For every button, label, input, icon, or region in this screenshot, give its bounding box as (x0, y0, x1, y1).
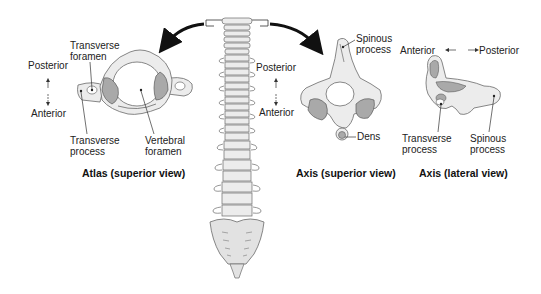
label-transverse-foramen: Transverse foramen (70, 40, 120, 62)
label-line: foramen (145, 146, 185, 157)
label-line: process (470, 144, 506, 155)
label-lateral-anterior: Anterior (400, 45, 435, 56)
vertebral-column (206, 18, 268, 278)
label-lateral-transverse-process: Transverse process (402, 133, 452, 155)
label-spinous-process: Spinous process (356, 33, 392, 55)
label-line: Spinous (356, 33, 392, 44)
label-lateral-posterior: Posterior (479, 45, 519, 56)
label-line: Transverse (70, 40, 120, 51)
title-axis-superior: Axis (superior view) (296, 167, 396, 179)
label-line: Spinous (470, 133, 506, 144)
label-axis-anterior: Anterior (259, 107, 294, 118)
label-line: Vertebral (145, 135, 185, 146)
arrow-to-atlas (166, 24, 204, 44)
label-line: Transverse (402, 133, 452, 144)
label-line: Transverse (70, 135, 120, 146)
axis-vertebra-lateral (426, 56, 500, 115)
label-line: process (402, 144, 452, 155)
label-line: process (70, 146, 120, 157)
label-atlas-anterior: Anterior (31, 108, 66, 119)
label-line: process (356, 44, 392, 55)
title-atlas-superior: Atlas (superior view) (82, 167, 185, 179)
arrow-to-axis (270, 24, 316, 46)
label-axis-posterior: Posterior (256, 62, 296, 73)
label-vertebral-foramen: Vertebral foramen (145, 135, 185, 157)
title-axis-lateral: Axis (lateral view) (419, 167, 508, 179)
label-lateral-spinous-process: Spinous process (470, 133, 506, 155)
label-atlas-posterior: Posterior (28, 60, 68, 71)
label-dens: Dens (357, 131, 380, 142)
label-transverse-process: Transverse process (70, 135, 120, 157)
label-line: foramen (70, 51, 120, 62)
